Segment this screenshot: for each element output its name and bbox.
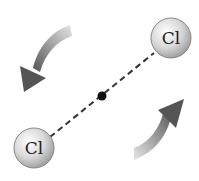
- molecule-diagram: Cl Cl: [0, 0, 199, 181]
- center-of-mass-dot: [98, 92, 107, 101]
- atom-upper-right: Cl: [151, 18, 191, 58]
- atom-lower-left: Cl: [14, 128, 54, 168]
- rotation-arrow-lower-right-icon: [134, 99, 184, 160]
- rotation-arrow-upper-left-icon: [20, 25, 72, 92]
- svg-text:Cl: Cl: [25, 138, 43, 158]
- svg-text:Cl: Cl: [162, 28, 180, 48]
